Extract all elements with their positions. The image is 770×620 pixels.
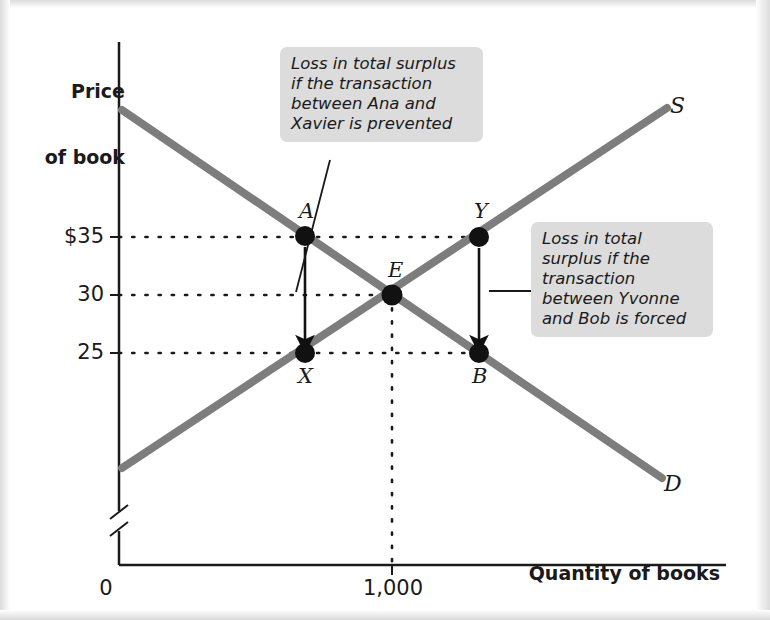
callout-yvonne-bob-line5: and Bob is forced — [542, 309, 703, 329]
point-label-e: E — [388, 258, 403, 282]
point-label-y: Y — [474, 199, 488, 223]
point-label-b: B — [472, 364, 487, 388]
point-x — [295, 343, 315, 363]
callout-ana-xavier-line1: Loss in total surplus — [291, 54, 473, 74]
point-label-x: X — [298, 364, 313, 388]
point-a — [295, 226, 315, 246]
x-tick-label-1000: 1,000 — [355, 576, 431, 600]
callout-yvonne-bob: Loss in total surplus if the transaction… — [531, 222, 713, 337]
callout-yvonne-bob-line1: Loss in total — [542, 229, 703, 249]
leader-line-ana-xavier — [296, 160, 330, 292]
point-b — [469, 343, 489, 363]
callout-yvonne-bob-line3: transaction — [542, 269, 703, 289]
y-axis-title-line2: of book — [33, 146, 125, 168]
y-axis-title-line1: Price — [33, 80, 125, 102]
y-axis-title: Price of book — [33, 36, 125, 212]
callout-yvonne-bob-line4: between Yvonne — [542, 289, 703, 309]
demand-curve-label: D — [664, 471, 682, 496]
point-label-a: A — [299, 199, 314, 223]
callout-ana-xavier-line2: if the transaction — [291, 74, 473, 94]
callout-ana-xavier-line4: Xavier is prevented — [291, 114, 473, 134]
y-tick-label-25: 25 — [28, 340, 104, 364]
economics-figure: Price of book Quantity of books $35 30 2… — [0, 0, 770, 620]
point-y — [469, 227, 489, 247]
x-axis-title: Quantity of books — [525, 562, 720, 584]
point-e — [382, 285, 403, 306]
y-tick-label-35: $35 — [28, 224, 104, 248]
y-tick-label-30: 30 — [28, 282, 104, 306]
supply-curve-label: S — [670, 93, 685, 118]
origin-label: 0 — [92, 576, 120, 600]
callout-ana-xavier-line3: between Ana and — [291, 94, 473, 114]
callout-yvonne-bob-line2: surplus if the — [542, 249, 703, 269]
callout-ana-xavier: Loss in total surplus if the transaction… — [280, 47, 483, 142]
